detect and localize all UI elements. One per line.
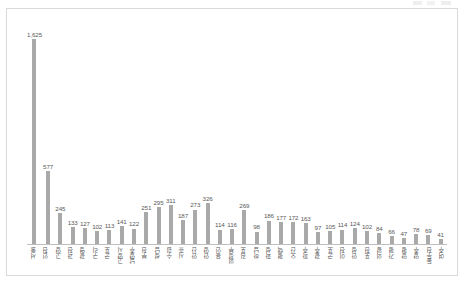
bar-rect[interactable] (242, 210, 246, 244)
bar-column[interactable]: 163 (300, 21, 312, 244)
category-label: 평택 (277, 247, 283, 259)
bar-rect[interactable] (206, 203, 210, 244)
bar-column[interactable]: 102 (91, 21, 103, 244)
bar-rect[interactable] (58, 213, 62, 244)
bar-column[interactable]: 122 (128, 21, 140, 244)
bar-column[interactable]: 102 (361, 21, 373, 244)
bar-rect[interactable] (390, 236, 394, 244)
bar-rect[interactable] (144, 212, 148, 244)
category-label: 광명 (79, 247, 85, 259)
bar-column[interactable]: 295 (152, 21, 164, 244)
bar-rect[interactable] (169, 205, 173, 244)
bar-rect[interactable] (340, 230, 344, 244)
category-label-cell: 시흥 (175, 247, 187, 284)
category-label-cell: 양주 (410, 247, 422, 284)
top-right-artifact (413, 1, 459, 5)
category-label: 과천 (67, 247, 73, 259)
bar-column[interactable]: 114 (214, 21, 226, 244)
bar-column[interactable]: 577 (42, 21, 54, 244)
bar-column[interactable]: 105 (324, 21, 336, 244)
bar-series: 1,62557724513312710211314112225129531118… (27, 21, 447, 244)
bar-column[interactable]: 141 (116, 21, 128, 244)
bar-rect[interactable] (193, 210, 197, 244)
bar-rect[interactable] (157, 207, 161, 244)
category-label: 의왕 (376, 247, 382, 259)
bar-value-label: 163 (301, 216, 311, 222)
category-label-cell: 남양주 (126, 247, 138, 284)
bar-rect[interactable] (181, 220, 185, 244)
bar-column[interactable]: 311 (165, 21, 177, 244)
bar-column[interactable]: 69 (422, 21, 434, 244)
bar-column[interactable]: 98 (251, 21, 263, 244)
category-label: 양평 (401, 247, 407, 259)
bar-column[interactable]: 66 (385, 21, 397, 244)
bar-rect[interactable] (32, 39, 36, 244)
bar-rect[interactable] (95, 231, 99, 244)
bar-column[interactable]: 97 (312, 21, 324, 244)
category-label: 의정부 (228, 247, 234, 264)
category-label: 파주 (302, 247, 308, 259)
bar-column[interactable]: 113 (103, 21, 115, 244)
category-label: 서울 (30, 247, 36, 259)
bar-column[interactable]: 172 (287, 21, 299, 244)
bar-column[interactable]: 186 (263, 21, 275, 244)
bar-column[interactable]: 84 (373, 21, 385, 244)
bar-column[interactable]: 78 (410, 21, 422, 244)
bar-rect[interactable] (255, 232, 259, 244)
bar-rect[interactable] (291, 222, 295, 244)
bar-rect[interactable] (120, 226, 124, 244)
bar-rect[interactable] (230, 229, 234, 244)
bar-rect[interactable] (218, 230, 222, 244)
bar-rect[interactable] (107, 230, 111, 244)
bar-column[interactable]: 1,625 (27, 21, 42, 244)
category-label-cell: 과천 (64, 247, 76, 284)
bar-rect[interactable] (365, 231, 369, 244)
category-label: 군포 (104, 247, 110, 259)
bar-column[interactable]: 127 (79, 21, 91, 244)
bar-rect[interactable] (328, 231, 332, 244)
bar-column[interactable]: 187 (177, 21, 189, 244)
bar-value-label: 105 (325, 224, 335, 230)
bar-value-label: 273 (190, 202, 200, 208)
bar-value-label: 1,625 (27, 32, 42, 38)
bar-column[interactable]: 124 (349, 21, 361, 244)
category-label-cell: 군포 (101, 247, 113, 284)
bar-rect[interactable] (46, 171, 50, 244)
bar-column[interactable]: 47 (398, 21, 410, 244)
bar-column[interactable]: 133 (67, 21, 79, 244)
bar-column[interactable]: 116 (226, 21, 238, 244)
category-label-cell: 안성 (348, 247, 360, 284)
bar-rect[interactable] (377, 233, 381, 244)
bar-rect[interactable] (304, 223, 308, 244)
bar-rect[interactable] (414, 234, 418, 244)
bar-rect[interactable] (83, 228, 87, 244)
bar-column[interactable]: 41 (434, 21, 446, 244)
bar-value-label: 102 (362, 224, 372, 230)
bar-value-label: 102 (92, 224, 102, 230)
bar-rect[interactable] (316, 232, 320, 244)
bar-column[interactable]: 114 (336, 21, 348, 244)
category-label-cell: 서울 (27, 247, 39, 284)
category-label-cell: 파주 (299, 247, 311, 284)
bar-value-label: 84 (376, 226, 383, 232)
bar-column[interactable]: 326 (201, 21, 213, 244)
bar-rect[interactable] (279, 222, 283, 244)
bar-rect[interactable] (426, 235, 430, 244)
bar-value-label: 66 (388, 229, 395, 235)
bar-rect[interactable] (353, 228, 357, 244)
bar-column[interactable]: 269 (238, 21, 250, 244)
bar-value-label: 311 (166, 198, 176, 204)
category-label: 오산 (290, 247, 296, 259)
bar-column[interactable]: 273 (189, 21, 201, 244)
bar-rect[interactable] (71, 227, 75, 244)
bar-column[interactable]: 245 (54, 21, 66, 244)
category-label-cell: 의왕 (373, 247, 385, 284)
bar-rect[interactable] (132, 229, 136, 244)
bar-value-label: 251 (141, 205, 151, 211)
bar-rect[interactable] (267, 221, 271, 244)
bar-column[interactable]: 177 (275, 21, 287, 244)
bar-column[interactable]: 251 (140, 21, 152, 244)
category-label-cell: 구리 (89, 247, 101, 284)
category-label: 여주 (438, 247, 444, 259)
bar-value-label: 113 (105, 223, 115, 229)
